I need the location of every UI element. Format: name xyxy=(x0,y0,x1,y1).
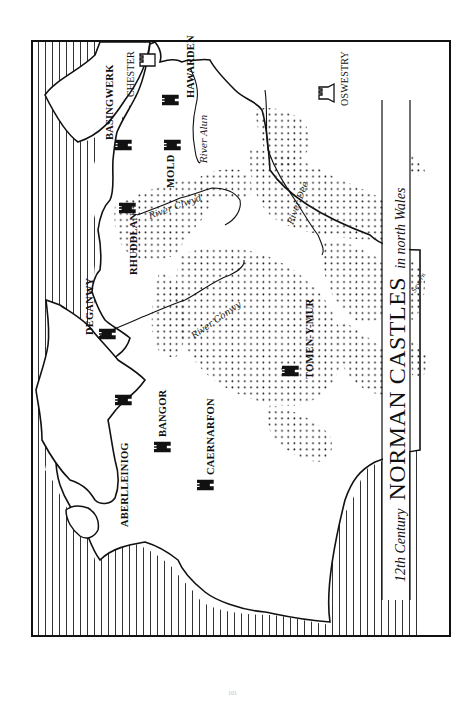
label-oswestry: OSWESTRY xyxy=(339,51,350,106)
label-basingwerk: BASINGWERK xyxy=(104,64,115,140)
label-bangor: BANGOR xyxy=(157,389,168,437)
label-river-alun: River Alun xyxy=(199,115,209,164)
title-prefix: 12th Century xyxy=(393,508,408,582)
title-suffix: in north Wales xyxy=(393,187,408,269)
label-rhuddlan: RHUDDLAN xyxy=(128,213,139,275)
castle-icon-oswestry xyxy=(319,84,334,102)
label-aberlleiniog: ABERLLEINIOG xyxy=(119,442,130,527)
label-chester: CHESTER xyxy=(125,51,136,97)
label-hawarden: HAWARDEN xyxy=(185,35,196,98)
label-mold: MOLD xyxy=(165,154,176,188)
map-title: 12th Century NORMAN CASTLES in north Wal… xyxy=(382,100,410,600)
norman-castles-map: BASINGWERK HAWARDEN MOLD RHUDDLAN DEGANW… xyxy=(0,0,473,706)
label-caernarfon: CAERNARFON xyxy=(205,398,216,475)
page-number: 101 xyxy=(228,690,237,696)
label-deganwy: DEGANWY xyxy=(84,277,95,335)
label-tomen-y-mur: TOMEN-Y-MUR xyxy=(304,298,315,379)
castle-icon-chester xyxy=(140,54,155,66)
title-main: NORMAN CASTLES xyxy=(384,277,410,501)
